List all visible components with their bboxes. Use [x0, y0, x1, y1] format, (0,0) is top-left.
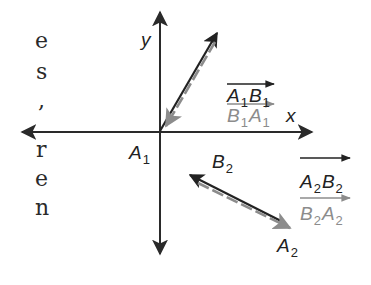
y-axis-label: y: [141, 30, 151, 49]
vector-diagram: [0, 0, 371, 285]
origin-label: A1: [129, 143, 151, 166]
label-b2a2: B2A2: [300, 204, 344, 227]
vector-a1b1: [160, 33, 217, 131]
label-a2b2: A2B2: [300, 172, 344, 195]
vector-a2b2: [190, 175, 283, 222]
vector-b2a2: [198, 183, 290, 228]
vector-b1a1: [166, 42, 215, 126]
label-b1a1: B1A1: [227, 106, 271, 129]
x-axis-label: x: [286, 106, 296, 125]
point-a2-label: A2: [277, 236, 299, 259]
point-b2-label: B2: [212, 152, 234, 175]
